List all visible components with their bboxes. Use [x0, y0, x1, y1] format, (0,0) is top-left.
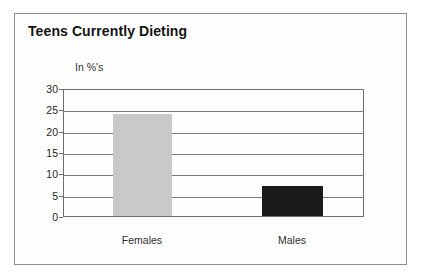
- gridline: [64, 175, 363, 176]
- bar-males: [262, 186, 323, 216]
- chart-frame: Teens Currently Dieting In %'s 051015202…: [14, 13, 407, 265]
- y-tick-label: 5: [27, 190, 58, 202]
- category-label-males: Males: [242, 234, 342, 246]
- y-tick-label: 0: [27, 211, 58, 223]
- figure: Teens Currently Dieting In %'s 051015202…: [0, 0, 421, 273]
- category-label-females: Females: [92, 234, 192, 246]
- y-tick-label: 15: [27, 147, 58, 159]
- y-tick-mark: [59, 217, 63, 218]
- y-tick-label: 25: [27, 104, 58, 116]
- gridline: [64, 133, 363, 134]
- y-tick-label: 30: [27, 83, 58, 95]
- gridline: [64, 111, 363, 112]
- bar-females: [113, 114, 172, 216]
- y-axis-unit-label: In %'s: [75, 61, 103, 73]
- y-tick-label: 20: [27, 126, 58, 138]
- gridline: [64, 154, 363, 155]
- y-tick-label: 10: [27, 168, 58, 180]
- chart-title: Teens Currently Dieting: [28, 23, 187, 39]
- plot-area: [63, 89, 364, 217]
